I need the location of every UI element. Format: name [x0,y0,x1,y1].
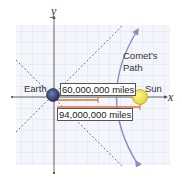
earth-icon [47,89,60,102]
comet-label-line1: Comet's [123,51,158,61]
distance-label-short: 60,000,000 miles [60,83,136,96]
comet-label-line2: Path [123,63,143,73]
hyperbola-diagram: y x Earth Sun Comet's Path 60,000,000 mi… [0,0,182,179]
distance-label-long: 94,000,000 miles [57,108,133,121]
y-axis-label: y [51,5,56,17]
x-axis-label: x [168,91,173,103]
sun-label: Sun [145,84,162,94]
earth-label: Earth [24,84,47,94]
